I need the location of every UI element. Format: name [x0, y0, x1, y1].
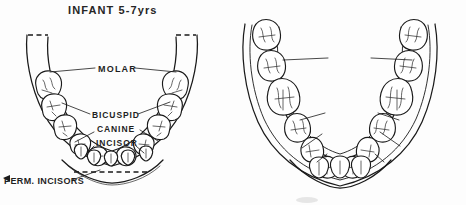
panel-infant: INFANT 5-7yrs MOLAR BICUSPID CANINE INCI… — [0, 0, 233, 205]
label-infant-bicuspid: BICUSPID — [92, 110, 140, 120]
label-infant-incisor: INCISOR — [96, 138, 138, 148]
diagram-canvas: INFANT 5-7yrs MOLAR BICUSPID CANINE INCI… — [0, 0, 466, 205]
label-infant-perm-incisors: PERM. INCISORS — [4, 176, 84, 186]
infant-title: INFANT 5-7yrs — [68, 4, 158, 16]
label-infant-molar: MOLAR — [98, 64, 137, 74]
panel-young-adult: YOUNG ADULT MOLAR BICUSPID CANINE INCISO… — [233, 0, 466, 205]
label-infant-canine: CANINE — [97, 124, 135, 134]
